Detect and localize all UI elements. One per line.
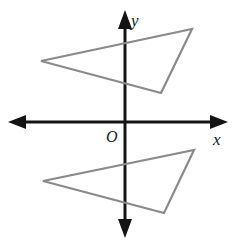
y-axis-label: y [129,11,139,30]
coordinate-plane-figure: y x O [0,0,241,245]
x-axis-label: x [212,130,221,149]
origin-label: O [106,128,118,145]
figure-canvas: y x O [0,0,241,245]
